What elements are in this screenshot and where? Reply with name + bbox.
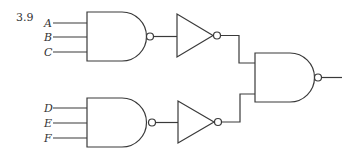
inverter-bottom: [178, 101, 222, 143]
input-label-e: E: [43, 117, 52, 130]
inversion-bubble: [149, 119, 156, 126]
input-label-b: B: [43, 31, 52, 44]
input-label-a: A: [43, 17, 52, 30]
inversion-bubble: [315, 74, 322, 81]
bottom-input-wires: [53, 108, 87, 138]
logic-circuit-diagram: 3.9 A B C D E F: [0, 0, 358, 153]
top-input-wires: [53, 23, 87, 52]
nand-gate-top: [87, 12, 154, 61]
input-label-d: D: [43, 102, 53, 115]
nand-gate-bottom: [87, 98, 156, 147]
inversion-bubble: [215, 119, 222, 126]
inverter-top: [177, 14, 221, 57]
input-label-f: F: [43, 132, 52, 145]
wire-to-output-nand: [222, 94, 256, 122]
wire-to-output-nand: [221, 36, 256, 64]
inversion-bubble: [214, 32, 221, 39]
inversion-bubble: [147, 33, 154, 40]
nand-gate-output: [255, 53, 322, 102]
figure-number: 3.9: [16, 11, 34, 24]
input-label-c: C: [44, 46, 53, 59]
